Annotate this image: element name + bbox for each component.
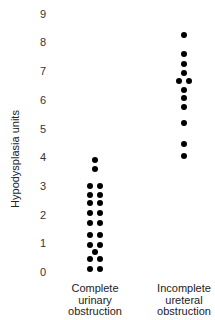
data-point — [92, 166, 98, 172]
data-point — [87, 242, 93, 248]
dot-plot-chart: Hypodysplasia units 0123456789 Completeu… — [0, 0, 215, 320]
y-tick-label: 7 — [37, 65, 49, 77]
data-point — [97, 242, 103, 248]
data-point — [87, 200, 93, 206]
data-point — [97, 220, 103, 226]
y-tick-label: 3 — [37, 180, 49, 192]
data-point — [87, 192, 93, 198]
data-point — [87, 256, 93, 262]
y-tick-label: 0 — [37, 266, 49, 278]
data-point — [181, 61, 187, 67]
y-axis-label: Hypodysplasia units — [9, 110, 21, 208]
data-point — [181, 32, 187, 38]
data-point — [97, 232, 103, 238]
data-point — [97, 183, 103, 189]
data-point — [181, 95, 187, 101]
data-point — [181, 51, 187, 57]
data-point — [97, 210, 103, 216]
data-point — [176, 78, 182, 84]
y-tick-label: 2 — [37, 209, 49, 221]
data-point — [181, 141, 187, 147]
y-tick-label: 8 — [37, 36, 49, 48]
y-tick-label: 6 — [37, 94, 49, 106]
data-point — [181, 120, 187, 126]
y-tick-label: 4 — [37, 151, 49, 163]
y-tick-label: 1 — [37, 237, 49, 249]
x-category-label: Incompleteureteralobstruction — [144, 283, 215, 318]
y-tick-label: 9 — [37, 8, 49, 20]
data-point — [181, 87, 187, 93]
data-point — [186, 78, 192, 84]
data-point — [92, 157, 98, 163]
data-point — [97, 256, 103, 262]
data-point — [87, 232, 93, 238]
data-point — [181, 153, 187, 159]
x-category-label: Completeurinaryobstruction — [55, 283, 135, 318]
data-point — [181, 70, 187, 76]
data-point — [97, 266, 103, 272]
data-point — [92, 249, 98, 255]
data-point — [181, 104, 187, 110]
data-point — [97, 200, 103, 206]
data-point — [87, 183, 93, 189]
data-point — [97, 192, 103, 198]
data-point — [87, 266, 93, 272]
data-point — [87, 220, 93, 226]
data-point — [87, 210, 93, 216]
y-tick-label: 5 — [37, 123, 49, 135]
